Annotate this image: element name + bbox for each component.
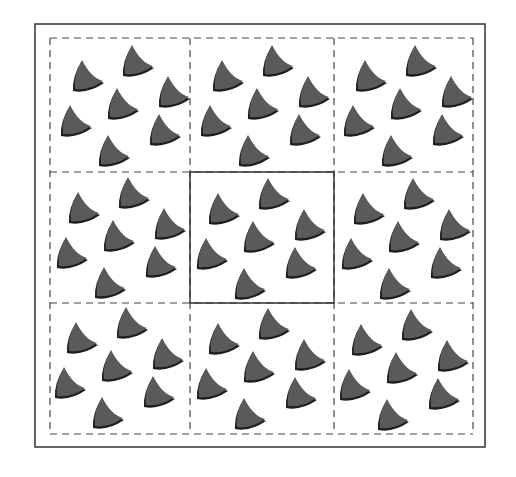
- shark-fin-motif: [117, 307, 148, 339]
- shark-fin-motif: [380, 268, 411, 300]
- shark-fin-motif: [235, 268, 266, 300]
- shark-fin-motif: [55, 367, 86, 399]
- shark-fin-motif: [239, 135, 270, 167]
- motif-layer: [55, 45, 473, 431]
- shark-fin-motif: [404, 178, 435, 210]
- shark-fin-motif: [95, 267, 126, 299]
- shark-fin-motif: [286, 247, 317, 279]
- shark-fin-motif: [382, 135, 413, 167]
- shark-fin-motif: [93, 397, 124, 429]
- shark-fin-motif: [356, 60, 387, 92]
- tiling-diagram: [0, 0, 516, 477]
- shark-fin-motif: [153, 338, 184, 370]
- shark-fin-motif: [244, 351, 275, 383]
- shark-fin-motif: [201, 105, 232, 137]
- tile-cell-r0-c2: [344, 45, 473, 167]
- shark-fin-motif: [209, 323, 240, 355]
- shark-fin-motif: [119, 177, 150, 209]
- shark-fin-motif: [354, 193, 385, 225]
- tile-cell-r0-c1: [201, 45, 330, 167]
- shark-fin-motif: [299, 76, 330, 108]
- shark-fin-motif: [144, 376, 175, 408]
- shark-fin-motif: [146, 246, 177, 278]
- shark-fin-motif: [391, 88, 422, 120]
- shark-fin-motif: [389, 221, 420, 253]
- tile-cell-r0-c0: [61, 45, 190, 167]
- shark-fin-motif: [344, 105, 375, 137]
- shark-fin-motif: [438, 340, 469, 372]
- shark-fin-motif: [57, 237, 88, 269]
- shark-fin-motif: [440, 209, 471, 241]
- tile-cell-r1-c2: [342, 178, 471, 300]
- shark-fin-motif: [342, 238, 373, 270]
- shark-fin-motif: [150, 114, 181, 146]
- tile-cell-r2-c1: [197, 308, 326, 430]
- shark-fin-motif: [433, 114, 464, 146]
- shark-fin-motif: [213, 60, 244, 92]
- shark-fin-motif: [259, 308, 290, 340]
- shark-fin-motif: [197, 238, 228, 270]
- shark-fin-motif: [123, 45, 154, 77]
- shark-fin-motif: [352, 324, 383, 356]
- shark-fin-motif: [99, 135, 130, 167]
- shark-fin-motif: [442, 76, 473, 108]
- shark-fin-motif: [244, 221, 275, 253]
- shark-fin-motif: [431, 247, 462, 279]
- tile-cell-r2-c0: [55, 307, 184, 429]
- shark-fin-motif: [235, 398, 266, 430]
- shark-fin-motif: [197, 368, 228, 400]
- shark-fin-motif: [108, 88, 139, 120]
- tile-cell-r1-c1: [197, 178, 326, 300]
- shark-fin-motif: [69, 192, 100, 224]
- shark-fin-motif: [378, 399, 409, 431]
- shark-fin-motif: [387, 352, 418, 384]
- shark-fin-motif: [402, 309, 433, 341]
- shark-fin-motif: [290, 114, 321, 146]
- shark-fin-motif: [104, 220, 135, 252]
- shark-fin-motif: [159, 76, 190, 108]
- tile-cell-r2-c2: [340, 309, 469, 431]
- shark-fin-motif: [73, 60, 104, 92]
- shark-fin-motif: [295, 339, 326, 371]
- shark-fin-motif: [286, 377, 317, 409]
- tile-cell-r1-c0: [57, 177, 186, 299]
- shark-fin-motif: [61, 105, 92, 137]
- shark-fin-motif: [429, 378, 460, 410]
- shark-fin-motif: [155, 208, 186, 240]
- shark-fin-motif: [340, 369, 371, 401]
- shark-fin-motif: [248, 88, 279, 120]
- shark-fin-motif: [102, 350, 133, 382]
- shark-fin-motif: [67, 322, 98, 354]
- shark-fin-motif: [406, 45, 437, 77]
- shark-fin-motif: [259, 178, 290, 210]
- shark-fin-motif: [295, 209, 326, 241]
- shark-fin-motif: [209, 193, 240, 225]
- shark-fin-motif: [263, 45, 294, 77]
